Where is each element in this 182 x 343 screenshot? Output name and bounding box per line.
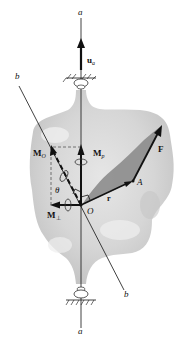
unit-vector-arrowhead (77, 38, 85, 48)
moment-parallel-subscript: p (102, 153, 105, 159)
origin-marker (80, 204, 83, 207)
moment-parallel-symbol: M (93, 148, 102, 158)
highlight (48, 237, 72, 253)
shadow (140, 191, 160, 219)
unit-vector-subscript: a (92, 60, 95, 66)
moment-perp-subscript: ⊥ (56, 215, 61, 221)
origin-label: O (87, 207, 94, 216)
diagram-svg (0, 0, 182, 343)
moment-perp-label: M⊥ (47, 211, 61, 221)
angle-theta-label: θ (55, 186, 59, 195)
highlight (100, 220, 140, 240)
moment-O-symbol: M (33, 148, 42, 158)
unit-vector-label: ua (87, 56, 95, 66)
point-A-label: A (137, 178, 143, 187)
moment-O-label: MO (33, 149, 46, 159)
highlight (41, 127, 69, 143)
line-b-label-top: b (15, 72, 20, 81)
moment-parallel-label: Mp (93, 149, 105, 159)
line-b-label-bottom: b (124, 290, 129, 299)
axis-label-bottom: a (78, 327, 83, 336)
moment-O-subscript: O (42, 153, 46, 159)
moment-about-axis-diagram: a a b b ua MO Mp M⊥ θ O A r F (0, 0, 182, 343)
force-label: F (158, 145, 164, 154)
position-vector-label: r (107, 195, 111, 203)
top-bearing-icon (63, 74, 96, 89)
axis-label-top: a (78, 8, 83, 17)
moment-perp-symbol: M (47, 210, 56, 220)
